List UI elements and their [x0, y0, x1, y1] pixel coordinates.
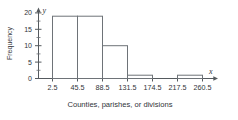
- bar-bin-5: [178, 75, 203, 78]
- x-tick-label-1: 45.5: [71, 83, 85, 92]
- histogram-svg: y x 0 5 10 15 20: [0, 0, 238, 120]
- bar-bin-0: [53, 16, 78, 78]
- y-tick-label-5: 5: [28, 59, 32, 66]
- bar-bin-1: [78, 16, 103, 78]
- x-tick-label-3: 131.5: [119, 83, 137, 92]
- bar-bin-2: [103, 46, 128, 79]
- bar-bin-3: [128, 75, 153, 78]
- x-tick-label-5: 217.5: [169, 83, 187, 92]
- y-tick-label-0: 0: [28, 75, 32, 82]
- y-axis: y: [36, 6, 46, 78]
- x-axis-title: Counties, parishes, or divisions: [67, 100, 172, 109]
- y-tick-labels: 0 5 10 15 20: [24, 9, 32, 82]
- x-tick-label-2: 88.5: [96, 83, 110, 92]
- y-tick-label-20: 20: [24, 9, 32, 16]
- x-axis-arrow-icon: [213, 76, 218, 80]
- y-axis-letter: y: [42, 6, 47, 15]
- y-axis-title: Frequency: [6, 26, 14, 60]
- y-axis-arrow-icon: [36, 8, 40, 13]
- x-axis-letter: x: [208, 67, 213, 76]
- y-tick-label-10: 10: [24, 42, 32, 49]
- x-tick-label-0: 2.5: [48, 83, 58, 92]
- y-tick-label-15: 15: [24, 26, 32, 33]
- x-tick-labels: 2.5 45.5 88.5 131.5 174.5 217.5 260.5: [48, 83, 212, 92]
- x-tick-label-6: 260.5: [194, 83, 212, 92]
- histogram-chart: y x 0 5 10 15 20: [0, 0, 238, 120]
- x-tick-label-4: 174.5: [144, 83, 162, 92]
- histogram-bars: [53, 16, 203, 78]
